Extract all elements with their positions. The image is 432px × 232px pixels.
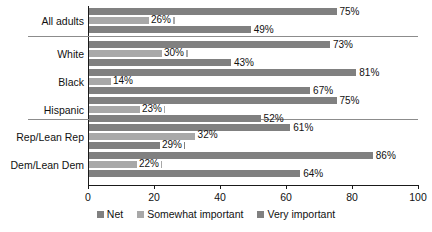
bar-value-very-important: 64% [300, 169, 323, 179]
x-axis-tick-label: 80 [346, 191, 358, 203]
legend-swatch-icon [257, 211, 264, 218]
bar-value-somewhat-important: 26% [149, 15, 173, 25]
legend-item-very-important[interactable]: Very important [257, 209, 335, 220]
x-axis-tick [418, 185, 419, 189]
x-axis-tick [286, 185, 287, 189]
bar-very-important[interactable] [89, 26, 251, 33]
bar-value-net: 86% [373, 151, 396, 161]
group-separator-1 [28, 36, 418, 37]
category-label-dem-lean-dem: Dem/Lean Dem [0, 160, 84, 171]
bar-net[interactable] [89, 41, 330, 48]
x-axis-tick [220, 185, 221, 189]
bar-value-net: 81% [356, 68, 379, 78]
category-label-hispanic: Hispanic [0, 105, 84, 116]
legend-swatch-icon [137, 211, 144, 218]
bar-very-important[interactable] [89, 87, 310, 94]
bar-value-somewhat-important: 23% [140, 104, 164, 114]
x-axis-tick [88, 185, 89, 189]
bar-value-net: 75% [337, 7, 360, 17]
bar-net[interactable] [89, 97, 337, 104]
x-axis-tick-label: 0 [85, 191, 91, 203]
bar-net[interactable] [89, 152, 373, 159]
bar-value-very-important: 67% [310, 86, 333, 96]
bar-value-net: 75% [337, 96, 360, 106]
legend-item-net[interactable]: Net [97, 209, 123, 220]
x-axis-tick-label: 40 [214, 191, 226, 203]
bar-very-important[interactable] [89, 170, 300, 177]
x-axis-tick [154, 185, 155, 189]
x-axis-tick-label: 100 [409, 191, 427, 203]
bar-value-somewhat-important: 14% [111, 76, 135, 86]
bar-value-very-important: 49% [251, 25, 274, 35]
category-label-all-adults: All adults [0, 16, 84, 27]
legend-label: Somewhat important [147, 209, 243, 220]
bar-value-very-important: 52% [261, 114, 284, 124]
x-axis-tick-label: 20 [148, 191, 160, 203]
category-label-black: Black [0, 77, 84, 88]
bar-value-net: 73% [330, 40, 353, 50]
bar-value-somewhat-important: 32% [195, 130, 218, 140]
legend-swatch-icon [97, 211, 104, 218]
bar-net[interactable] [89, 8, 337, 15]
bar-chart: All adults 75% 26% 49% White 73% [0, 0, 432, 232]
legend-label: Very important [267, 209, 335, 220]
chart-legend: Net Somewhat important Very important [0, 209, 432, 220]
bar-value-net: 61% [290, 123, 313, 133]
x-axis-tick-label: 60 [280, 191, 292, 203]
category-label-white: White [0, 49, 84, 60]
bar-net[interactable] [89, 124, 290, 131]
bar-value-very-important: 29% [160, 140, 184, 150]
bar-very-important[interactable] [89, 59, 231, 66]
category-label-rep-lean-rep: Rep/Lean Rep [0, 132, 84, 143]
bar-value-somewhat-important: 22% [137, 159, 161, 169]
x-axis-tick [352, 185, 353, 189]
bar-value-somewhat-important: 30% [162, 48, 186, 58]
x-axis-line [88, 185, 418, 186]
legend-label: Net [107, 209, 123, 220]
bar-value-very-important: 43% [231, 58, 254, 68]
bar-very-important[interactable] [89, 115, 261, 122]
legend-item-somewhat-important[interactable]: Somewhat important [137, 209, 243, 220]
